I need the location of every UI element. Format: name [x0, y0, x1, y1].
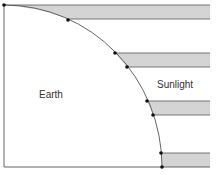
sunlight-band-1	[4, 5, 210, 19]
point-dot	[2, 3, 6, 7]
sunlight-band-2	[115, 53, 210, 67]
point-dot	[66, 18, 70, 22]
point-dot	[145, 99, 149, 103]
sunlight-label: Sunlight	[157, 79, 193, 90]
earth-surface-arc	[4, 5, 162, 167]
surface-points	[2, 3, 164, 169]
earth-label: Earth	[39, 89, 63, 100]
point-dot	[160, 165, 164, 169]
point-dot	[159, 151, 163, 155]
sunlight-band-3	[147, 101, 210, 115]
sunlight-band-4	[161, 153, 210, 167]
point-dot	[151, 113, 155, 117]
point-dot	[125, 65, 129, 69]
point-dot	[113, 51, 117, 55]
